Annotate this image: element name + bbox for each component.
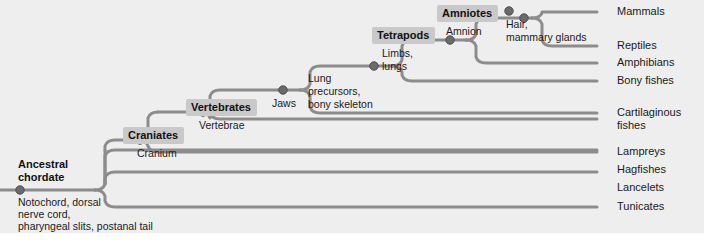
branch-to-tunicates	[95, 190, 597, 207]
root-trait-line3: pharyngeal slits, postanal tail	[18, 220, 153, 233]
branch-to-bony-fishes	[392, 66, 597, 81]
tip-label-tunicates: Tunicates	[617, 200, 664, 213]
node-jaws	[279, 86, 287, 94]
tip-label-bony-fishes: Bony fishes	[617, 74, 674, 87]
root-trait-line1: Notochord, dorsal	[18, 196, 101, 209]
trait-label-limbs-line2: lungs	[382, 60, 407, 73]
branch-to-lancelets	[95, 172, 597, 190]
trait-label-amnion: Amnion	[446, 25, 482, 38]
tip-label-amphibians: Amphibians	[617, 56, 674, 69]
node-lung-precursors	[370, 62, 378, 70]
tip-label-hagfishes: Hagfishes	[617, 163, 666, 176]
node-hair-mammary-glands	[505, 7, 513, 15]
trait-label-jaws: Jaws	[272, 97, 296, 110]
tip-label-cartilaginous-line2: fishes	[617, 119, 646, 132]
trait-label-cranium: Cranium	[137, 147, 177, 160]
tip-label-reptiles: Reptiles	[617, 39, 657, 52]
trait-label-lung-line3: bony skeleton	[308, 98, 373, 111]
clade-label-tetrapods: Tetrapods	[372, 27, 435, 44]
phylogenetic-tree-figure: Ancestral chordate Notochord, dorsal ner…	[0, 0, 704, 243]
branch-to-mammals	[532, 12, 597, 18]
trait-label-vertebrae: Vertebrae	[199, 119, 245, 132]
trait-label-lung-line1: Lung	[308, 72, 331, 85]
tip-label-lancelets: Lancelets	[617, 181, 664, 194]
trait-label-hair-line2: mammary glands	[506, 31, 587, 44]
trait-label-hair-line1: Hair,	[506, 18, 528, 31]
trait-label-limbs-line1: Limbs,	[382, 47, 413, 60]
clade-label-vertebrates: Vertebrates	[186, 99, 257, 116]
trait-label-lung-line2: precursors,	[308, 85, 361, 98]
node-ancestral-chordate	[16, 186, 24, 194]
tree-branches	[0, 0, 704, 243]
root-name-line2: chordate	[18, 171, 64, 184]
root-name-line1: Ancestral	[18, 158, 68, 171]
clade-label-craniates: Craniates	[123, 127, 184, 144]
tip-label-lampreys: Lampreys	[617, 145, 665, 158]
tip-label-mammals: Mammals	[617, 5, 665, 18]
root-trait-line2: nerve cord,	[18, 208, 71, 221]
tip-label-cartilaginous-line1: Cartilaginous	[617, 106, 681, 119]
clade-label-amniotes: Amniotes	[437, 5, 498, 22]
branch-to-hagfishes	[105, 150, 597, 184]
